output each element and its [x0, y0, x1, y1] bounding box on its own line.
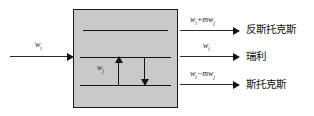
arrow-head [233, 53, 240, 61]
incident-beam-formula: wi [35, 41, 42, 51]
arrow-head [233, 27, 240, 35]
internal-transition-formula: wj [97, 64, 104, 74]
arrow-shaft [10, 56, 68, 57]
energy-level-ground [80, 85, 171, 86]
stokes-formula: wi−mwj [190, 70, 215, 80]
absorption-arrow-up-icon [114, 57, 123, 85]
energy-level-upper [80, 57, 171, 58]
arrow-shaft [180, 30, 234, 31]
rayleigh-arrow-icon [180, 52, 240, 61]
arrow-head [67, 53, 74, 61]
arrow-head [141, 79, 149, 86]
anti-stokes-formula: wi+mwj [190, 16, 215, 26]
raman-scattering-diagram: wj wi wi+mwj 反斯托克斯 wi 瑞利 wi−mwj 斯托克斯 [0, 0, 314, 116]
scattering-medium-box [73, 9, 178, 108]
arrow-head [233, 81, 240, 89]
rayleigh-formula: wi [203, 42, 210, 52]
anti-stokes-label: 反斯托克斯 [246, 24, 296, 35]
incident-beam-arrow-icon [10, 52, 74, 61]
arrow-shaft [180, 84, 234, 85]
anti-stokes-arrow-icon [180, 26, 240, 35]
stokes-label: 斯托克斯 [246, 79, 286, 90]
rayleigh-label: 瑞利 [246, 51, 266, 62]
arrow-head [115, 56, 123, 63]
arrow-shaft [180, 56, 234, 57]
emission-arrow-down-icon [140, 57, 149, 85]
energy-level-virtual [83, 30, 168, 31]
stokes-arrow-icon [180, 80, 240, 89]
